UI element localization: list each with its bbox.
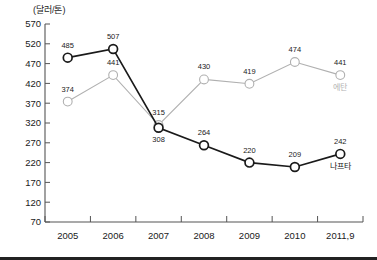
y-axis-unit-label: (달러/톤) <box>33 4 66 15</box>
chart-container: (달러/톤) 57052047042037032027022017012070 … <box>0 0 377 260</box>
y-tick-label: 420 <box>25 78 41 89</box>
series-end-label: 에탄 <box>333 82 348 92</box>
y-tick-label: 170 <box>25 177 41 188</box>
data-value-label: 220 <box>243 146 256 155</box>
y-tick-label: 470 <box>25 58 41 69</box>
y-tick-label: 270 <box>25 137 41 148</box>
data-point-marker <box>63 97 72 106</box>
y-tick-label: 320 <box>25 117 41 128</box>
data-point-marker <box>336 71 345 80</box>
data-value-label: 209 <box>289 150 302 159</box>
data-point-marker <box>336 149 345 158</box>
x-tick-label: 2010 <box>284 230 305 241</box>
data-value-label: 441 <box>107 58 120 67</box>
x-axis-tick-labels: 2005200620072008200920102011,9 <box>57 230 354 241</box>
x-tick-label: 2011,9 <box>326 230 354 241</box>
data-point-marker <box>200 141 209 150</box>
data-value-label: 242 <box>334 137 347 146</box>
y-axis-tick-marks <box>45 24 50 222</box>
data-point-marker <box>290 58 299 67</box>
data-value-label: 474 <box>289 45 302 54</box>
data-point-marker <box>290 163 299 172</box>
y-tick-label: 220 <box>25 157 41 168</box>
y-tick-label: 70 <box>30 216 41 227</box>
data-point-marker <box>109 71 118 80</box>
data-point-marker <box>245 158 254 167</box>
x-tick-label: 2009 <box>239 230 260 241</box>
x-tick-label: 2005 <box>57 230 78 241</box>
data-point-marker <box>109 45 118 54</box>
data-value-label: 264 <box>198 128 211 137</box>
data-value-label: 441 <box>334 58 347 67</box>
y-tick-label: 120 <box>25 197 41 208</box>
y-axis-tick-labels: 57052047042037032027022017012070 <box>25 18 41 227</box>
data-value-label: 507 <box>107 32 120 41</box>
data-value-label: 430 <box>198 62 211 71</box>
x-axis-tick-marks <box>45 216 363 222</box>
data-point-marker <box>63 53 72 62</box>
series-end-label: 나프타 <box>330 162 352 171</box>
x-tick-label: 2007 <box>148 230 169 241</box>
data-value-label: 308 <box>152 135 165 144</box>
data-point-marker <box>154 123 163 132</box>
line-chart: (달러/톤) 57052047042037032027022017012070 … <box>0 0 377 257</box>
x-tick-label: 2008 <box>193 230 214 241</box>
data-value-label: 485 <box>61 41 74 50</box>
x-tick-label: 2006 <box>103 230 124 241</box>
y-tick-label: 570 <box>25 18 41 29</box>
data-value-label: 374 <box>61 85 74 94</box>
data-value-label: 419 <box>243 67 256 76</box>
y-tick-label: 370 <box>25 98 41 109</box>
y-tick-label: 520 <box>25 38 41 49</box>
data-value-label: 315 <box>152 108 165 117</box>
data-point-marker <box>200 75 209 84</box>
data-point-marker <box>245 79 254 88</box>
